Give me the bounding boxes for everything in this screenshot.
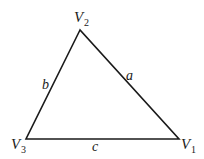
svg-text:2: 2 <box>84 17 89 28</box>
vertex-label-v3: V 3 <box>11 136 26 155</box>
vertex-label-v1: V 1 <box>181 136 196 155</box>
side-label-a: a <box>126 68 133 83</box>
side-label-b: b <box>42 77 49 92</box>
svg-text:1: 1 <box>191 144 196 155</box>
side-label-c: c <box>92 139 99 154</box>
triangle-diagram: V 2 V 3 V 1 a b c <box>0 0 204 159</box>
svg-text:3: 3 <box>21 144 26 155</box>
vertex-label-v2: V 2 <box>74 9 89 28</box>
